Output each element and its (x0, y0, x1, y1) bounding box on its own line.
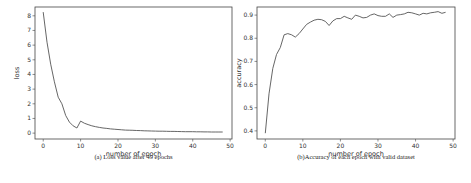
plot-frame (257, 7, 455, 139)
x-tick-label: 50 (226, 142, 234, 149)
y-tick-label: 6 (27, 41, 31, 48)
y-axis-label: accuracy (235, 58, 243, 87)
x-tick-label: 10 (77, 142, 85, 149)
data-line (265, 12, 445, 134)
plot-frame (35, 7, 232, 139)
y-tick-label: 0.7 (243, 57, 253, 64)
x-tick-label: 20 (114, 142, 122, 149)
figure-caption: (b)Accuracy of each epoch with valid dat… (297, 153, 415, 161)
y-tick-label: 3 (27, 85, 31, 92)
y-tick-label: 4 (27, 70, 31, 77)
data-line (43, 12, 223, 132)
y-tick-label: 0 (27, 129, 31, 136)
figure-caption: (a) Loss value after 49 epochs (94, 153, 173, 161)
y-tick-label: 5 (27, 56, 31, 63)
y-tick-label: 0.4 (243, 127, 253, 134)
figure: 01020304050012345678number of epochloss(… (0, 0, 471, 183)
y-tick-label: 0.8 (243, 34, 253, 41)
x-tick-label: 20 (337, 142, 345, 149)
x-tick-label: 30 (374, 142, 382, 149)
y-tick-label: 7 (27, 26, 31, 33)
x-tick-label: 30 (152, 142, 160, 149)
y-tick-label: 2 (27, 100, 31, 107)
x-tick-label: 0 (41, 142, 45, 149)
accuracy-chart: 010203040500.40.50.60.70.80.9number of e… (235, 7, 457, 161)
y-tick-label: 0.5 (243, 104, 253, 111)
x-tick-label: 10 (299, 142, 307, 149)
y-tick-label: 0.9 (243, 11, 253, 18)
y-tick-label: 0.6 (243, 81, 253, 88)
x-tick-label: 40 (412, 142, 420, 149)
x-tick-label: 50 (449, 142, 457, 149)
x-tick-label: 0 (263, 142, 267, 149)
y-axis-label: loss (13, 66, 21, 79)
y-tick-label: 1 (27, 114, 31, 121)
x-tick-label: 40 (189, 142, 197, 149)
loss-chart: 01020304050012345678number of epochloss(… (13, 7, 234, 161)
y-tick-label: 8 (27, 12, 31, 19)
